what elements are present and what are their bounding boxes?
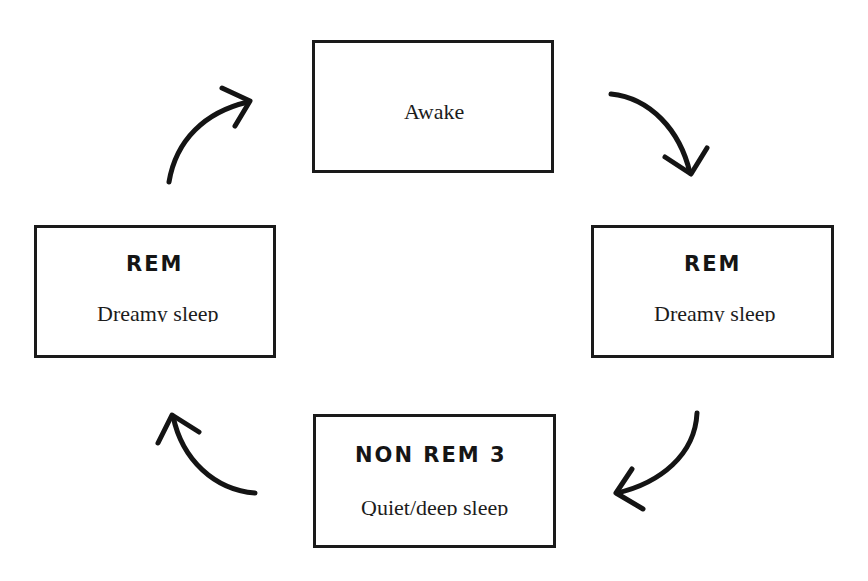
arrow-rem-right-to-non-rem-icon	[616, 413, 697, 509]
arrow-awake-to-rem-right-icon	[611, 94, 707, 174]
arrow-non-rem-to-rem-left-icon	[158, 415, 255, 493]
arrow-rem-left-to-awake-icon	[169, 88, 250, 182]
cycle-arrows	[0, 0, 868, 581]
